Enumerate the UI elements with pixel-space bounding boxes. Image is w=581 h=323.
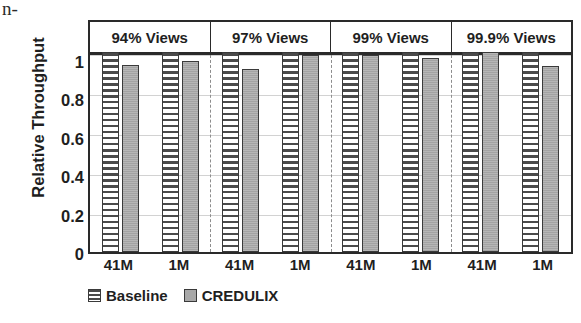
bar-credulix[interactable] [302,55,319,252]
group-header-label: 99.9% Views [452,22,572,52]
x-tick-group: 41M1M [209,256,330,280]
group-header-label: 97% Views [211,22,332,52]
x-tick-group: 41M1M [452,256,573,280]
group-header-label: 99% Views [331,22,452,52]
bar-cluster [150,55,210,252]
x-axis-tick-label: 41M [88,256,149,280]
x-axis-tick-labels: 41M1M41M1M41M1M41M1M [88,256,573,280]
legend-label: CREDULIX [202,287,279,304]
bar-group [90,55,210,252]
plot-inner [90,55,571,252]
group-header-band: 94% Views97% Views99% Views99.9% Views [88,20,573,54]
legend-swatch-baseline [88,289,101,302]
bar-cluster [391,55,451,252]
bar-credulix[interactable] [242,69,259,252]
y-axis-tick-labels: 00.20.40.60.81 [40,62,84,254]
legend-label: Baseline [106,287,168,304]
bar-cluster [451,55,511,252]
bar-chart-figure: Relative Throughput 00.20.40.60.81 94% V… [0,0,581,323]
bar-cluster [90,55,150,252]
bar-credulix[interactable] [122,65,139,252]
y-axis-tick-label: 1 [40,53,84,72]
bar-group [210,55,330,252]
bar-credulix[interactable] [422,58,439,252]
bar-baseline[interactable] [402,52,419,252]
x-tick-group: 41M1M [331,256,452,280]
y-axis-tick-label: 0.2 [40,206,84,225]
legend-item[interactable]: Baseline [88,287,168,304]
legend-swatch-credulix [184,289,197,302]
x-axis-tick-label: 1M [391,256,452,280]
y-axis-tick-label: 0 [40,245,84,264]
x-axis-tick-label: 1M [270,256,331,280]
bar-baseline[interactable] [222,52,239,252]
bar-baseline[interactable] [342,52,359,252]
legend-item[interactable]: CREDULIX [184,287,279,304]
bar-baseline[interactable] [282,52,299,252]
bar-cluster [270,55,330,252]
bar-baseline[interactable] [162,52,179,252]
x-axis-tick-label: 41M [452,256,513,280]
y-axis-tick-label: 0.8 [40,91,84,110]
x-axis-tick-label: 1M [512,256,573,280]
x-axis-tick-label: 41M [331,256,392,280]
plot-area [88,54,573,254]
bar-baseline[interactable] [522,52,539,252]
bar-credulix[interactable] [482,52,499,252]
y-axis-tick-label: 0.6 [40,129,84,148]
bar-cluster [210,55,270,252]
bar-cluster [331,55,391,252]
bars-layer [90,55,571,252]
bar-credulix[interactable] [542,66,559,252]
x-axis-tick-label: 1M [149,256,210,280]
bar-credulix[interactable] [362,55,379,252]
x-tick-group: 41M1M [88,256,209,280]
y-axis-tick-label: 0.4 [40,168,84,187]
group-header-label: 94% Views [90,22,211,52]
bar-baseline[interactable] [102,52,119,252]
legend: BaselineCREDULIX [88,287,278,304]
bar-cluster [511,55,571,252]
bar-baseline[interactable] [462,52,479,252]
bar-credulix[interactable] [182,61,199,252]
x-axis-tick-label: 41M [209,256,270,280]
bar-group [331,55,451,252]
bar-group [451,55,571,252]
